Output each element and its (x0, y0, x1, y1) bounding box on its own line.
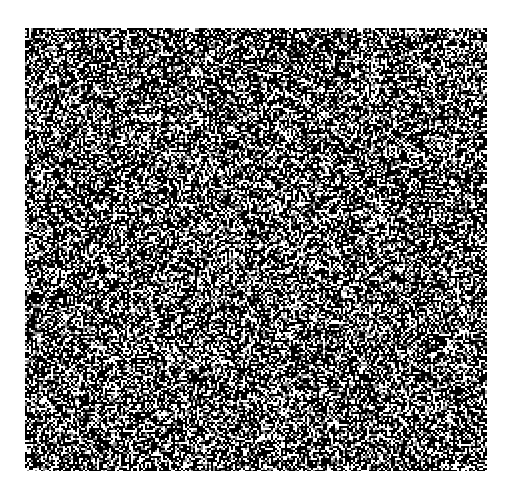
figure (0, 0, 513, 493)
random-dot-noise-panel (25, 28, 487, 471)
